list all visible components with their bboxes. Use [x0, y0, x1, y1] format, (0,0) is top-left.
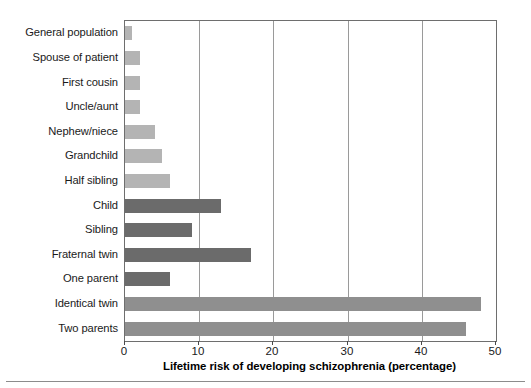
x-tick-label: 20 [257, 345, 287, 357]
gridline-10 [199, 21, 200, 341]
category-label: First cousin [0, 76, 118, 88]
gridline-40 [422, 21, 423, 341]
bar [125, 223, 192, 237]
category-label: Child [0, 199, 118, 211]
bar-chart-figure: General populationSpouse of patientFirst… [0, 0, 531, 388]
bar [125, 26, 132, 40]
bar [125, 322, 466, 336]
bar [125, 125, 155, 139]
plot-area [124, 20, 497, 342]
x-tick-label: 50 [480, 345, 510, 357]
bar [125, 297, 481, 311]
gridline-20 [273, 21, 274, 341]
bar [125, 149, 162, 163]
gridline-30 [348, 21, 349, 341]
plot-inner [125, 21, 496, 341]
x-tick-label: 30 [332, 345, 362, 357]
x-tick-label: 0 [109, 345, 139, 357]
x-axis: 01020304050 [124, 341, 495, 359]
category-label: General population [0, 26, 118, 38]
bar [125, 100, 140, 114]
category-label: Two parents [0, 322, 118, 334]
bar [125, 51, 140, 65]
category-label: Uncle/aunt [0, 100, 118, 112]
category-label: Grandchild [0, 149, 118, 161]
category-label: Half sibling [0, 174, 118, 186]
bottom-divider [6, 381, 525, 382]
category-label: Nephew/niece [0, 125, 118, 137]
category-label: Identical twin [0, 297, 118, 309]
bar [125, 272, 170, 286]
x-tick-label: 40 [406, 345, 436, 357]
bar [125, 76, 140, 90]
category-label: Fraternal twin [0, 248, 118, 260]
x-axis-title: Lifetime risk of developing schizophreni… [124, 360, 495, 372]
bar [125, 248, 251, 262]
bar [125, 174, 170, 188]
category-label: One parent [0, 272, 118, 284]
bar [125, 199, 221, 213]
category-label: Sibling [0, 223, 118, 235]
x-tick-label: 10 [183, 345, 213, 357]
category-axis: General populationSpouse of patientFirst… [0, 20, 118, 340]
category-label: Spouse of patient [0, 51, 118, 63]
